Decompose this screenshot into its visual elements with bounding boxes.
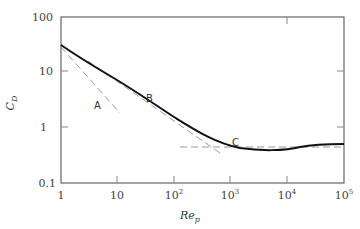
x-tick-10e2: 102 bbox=[165, 188, 183, 202]
label-b: B bbox=[146, 93, 153, 104]
y-tick-100: 100 bbox=[32, 11, 53, 24]
x-tick-1: 1 bbox=[58, 189, 65, 202]
drag-coefficient-chart: 100 10 1 0.1 1 10 102 103 104 105 Rep CD… bbox=[0, 0, 360, 229]
x-tick-10e4: 104 bbox=[278, 188, 297, 202]
x-tick-10e5: 105 bbox=[335, 188, 353, 202]
x-tick-10: 10 bbox=[110, 189, 124, 202]
y-tick-10: 10 bbox=[39, 65, 53, 78]
x-tick-10e3: 103 bbox=[221, 188, 239, 202]
x-axis-title: Rep bbox=[179, 209, 200, 224]
label-c: C bbox=[232, 137, 239, 148]
label-a: A bbox=[94, 100, 101, 111]
y-ticks bbox=[61, 71, 344, 127]
plot-frame bbox=[61, 17, 344, 183]
y-axis-title: CD bbox=[4, 95, 19, 110]
asymptote-a bbox=[61, 47, 120, 113]
y-tick-1: 1 bbox=[40, 121, 47, 134]
asymptote-lines bbox=[61, 47, 344, 153]
x-ticks bbox=[117, 17, 287, 183]
y-tick-0.1: 0.1 bbox=[39, 177, 57, 190]
drag-curve bbox=[61, 45, 344, 150]
